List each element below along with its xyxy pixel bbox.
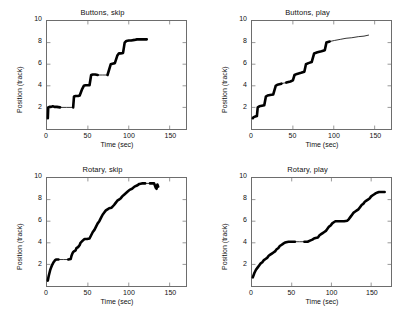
x-tick-label: 50 xyxy=(279,289,303,296)
data-marker-cluster xyxy=(48,260,59,281)
y-tick-label: 10 xyxy=(227,15,247,22)
y-tick-label: 4 xyxy=(22,238,42,245)
y-tick-label: 4 xyxy=(22,81,42,88)
data-marker-cluster xyxy=(253,84,282,119)
y-tick-label: 8 xyxy=(22,194,42,201)
x-tick-label: 0 xyxy=(34,289,58,296)
data-marker-cluster xyxy=(150,183,158,188)
y-tick-label: 8 xyxy=(22,37,42,44)
x-tick-label: 150 xyxy=(363,132,387,139)
data-series-line xyxy=(48,183,158,280)
x-tick-label: 0 xyxy=(239,132,263,139)
x-tick-label: 100 xyxy=(322,132,346,139)
y-tick-label: 10 xyxy=(22,172,42,179)
x-axis-label: Time (sec) xyxy=(46,298,188,305)
plot-svg xyxy=(252,178,391,286)
plot-svg xyxy=(252,21,391,129)
x-tick-label: 50 xyxy=(75,289,99,296)
plot-svg xyxy=(47,21,186,129)
y-tick-label: 4 xyxy=(227,81,247,88)
plot-area xyxy=(251,20,392,130)
y-tick-label: 2 xyxy=(22,103,42,110)
subplot-rotary-skip: Rotary, skip Position (track) Time (sec)… xyxy=(0,163,205,314)
data-marker-cluster xyxy=(108,39,147,75)
y-tick-label: 2 xyxy=(227,260,247,267)
data-marker-cluster xyxy=(286,42,329,83)
x-tick-label: 150 xyxy=(158,132,182,139)
y-tick-label: 6 xyxy=(227,216,247,223)
data-marker-cluster xyxy=(48,106,60,118)
x-tick-label: 100 xyxy=(320,289,344,296)
plot-area xyxy=(251,177,392,287)
y-tick-label: 4 xyxy=(227,238,247,245)
data-marker-cluster xyxy=(68,183,145,259)
y-tick-label: 10 xyxy=(22,15,42,22)
x-axis-label: Time (sec) xyxy=(251,141,393,148)
y-tick-label: 6 xyxy=(227,59,247,66)
x-tick-label: 0 xyxy=(34,132,58,139)
y-tick-label: 8 xyxy=(227,194,247,201)
plot-area xyxy=(46,177,187,287)
y-tick-label: 2 xyxy=(227,103,247,110)
x-tick-label: 100 xyxy=(117,289,141,296)
x-axis-label: Time (sec) xyxy=(46,141,188,148)
data-marker-cluster xyxy=(253,242,295,278)
y-tick-label: 6 xyxy=(22,59,42,66)
plot-area xyxy=(46,20,187,130)
data-marker-cluster xyxy=(73,74,98,107)
data-marker-cluster xyxy=(304,192,384,242)
y-tick-label: 8 xyxy=(227,37,247,44)
x-tick-label: 150 xyxy=(360,289,384,296)
y-tick-label: 2 xyxy=(22,260,42,267)
x-axis-label: Time (sec) xyxy=(251,298,393,305)
x-tick-label: 50 xyxy=(280,132,304,139)
subplot-buttons-skip: Buttons, skip Position (track) Time (sec… xyxy=(0,6,205,157)
y-tick-label: 10 xyxy=(227,172,247,179)
data-series-line xyxy=(48,39,147,118)
data-series-line xyxy=(253,35,369,118)
x-tick-label: 150 xyxy=(158,289,182,296)
x-tick-label: 0 xyxy=(239,289,263,296)
figure-canvas: Buttons, skip Position (track) Time (sec… xyxy=(0,0,410,314)
subplot-buttons-play: Buttons, play Position (track) Time (sec… xyxy=(205,6,410,157)
x-tick-label: 100 xyxy=(117,132,141,139)
subplot-rotary-play: Rotary, play Position (track) Time (sec)… xyxy=(205,163,410,314)
x-tick-label: 50 xyxy=(75,132,99,139)
y-tick-label: 6 xyxy=(22,216,42,223)
plot-svg xyxy=(47,178,186,286)
